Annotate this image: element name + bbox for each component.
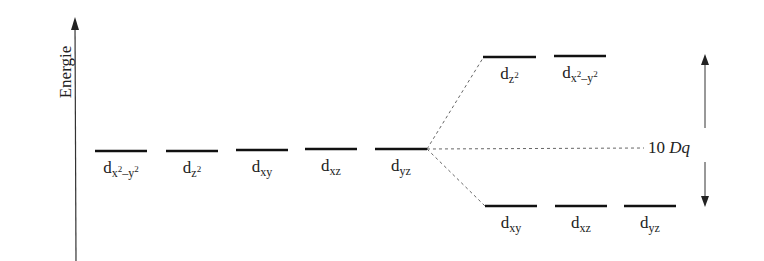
t2g-orbital-label: dxy <box>501 214 522 234</box>
splitting-number: 10 <box>648 138 665 157</box>
splitting-label: 10 Dq <box>646 138 692 158</box>
energy-axis-label: Energie <box>56 46 76 99</box>
arrow-down-icon <box>701 196 709 207</box>
eg-orbital-label: dx2–y2 <box>562 64 598 84</box>
degenerate-orbital-label: dxy <box>252 158 273 178</box>
eg-orbital-label: dz2 <box>500 65 518 85</box>
energy-axis-arrow-icon <box>71 17 79 30</box>
arrow-up-icon <box>701 54 709 65</box>
degenerate-orbital-label: dz2 <box>183 159 201 179</box>
t2g-orbital-label: dxz <box>571 214 591 234</box>
t2g-orbital-label: dyz <box>640 214 660 234</box>
degenerate-orbital-label: dxz <box>321 157 341 177</box>
connector-barycenter <box>427 148 644 149</box>
connector-to-eg <box>427 58 483 149</box>
degenerate-orbital-label: dx2–y2 <box>103 159 139 179</box>
degenerate-orbital-label: dyz <box>391 157 411 177</box>
splitting-symbol: Dq <box>669 138 690 157</box>
connector-to-t2g <box>427 149 485 206</box>
